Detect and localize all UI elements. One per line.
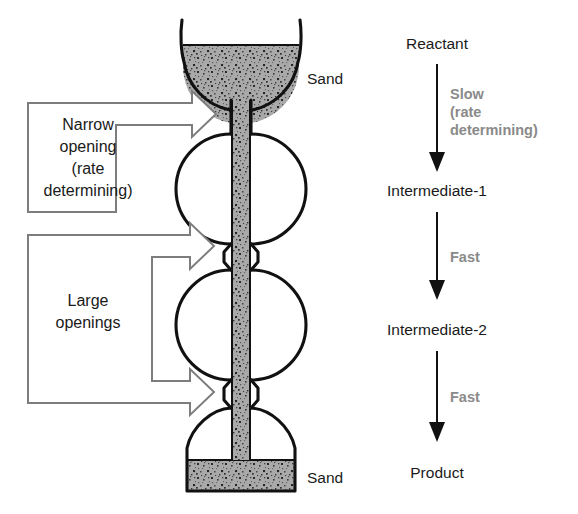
reaction-arrow-step-1 (429, 64, 445, 172)
top-sand-label: Sand (307, 70, 343, 87)
large-opening-lower-right (251, 380, 258, 408)
species-product: Product (410, 464, 464, 481)
step-2-arrow-head (429, 280, 445, 300)
upper-bulb-left (176, 134, 231, 244)
reaction-arrow-step-3 (429, 351, 445, 442)
central-sand-column (232, 100, 250, 452)
narrow-opening-line-2: opening (60, 138, 117, 155)
upper-bulb-right (251, 134, 306, 244)
step-1-label-line-1: Slow (450, 86, 485, 102)
reaction-arrow-step-2 (429, 212, 445, 300)
step-2-label: Fast (450, 249, 480, 265)
species-intermediate-2: Intermediate-2 (387, 321, 487, 338)
step-1-label-line-3: determining) (450, 122, 538, 138)
step-3-arrow-head (429, 422, 445, 442)
step-3-label: Fast (450, 389, 480, 405)
large-opening-upper-right (251, 244, 258, 270)
large-openings-line-2: openings (56, 314, 121, 331)
step-1-label-line-2: (rate (450, 104, 481, 120)
large-openings-callout: Large openings (28, 223, 214, 415)
lower-bulb-right (251, 270, 306, 380)
narrow-opening-callout: Narrow opening (rate determining) (28, 91, 216, 212)
large-opening-lower-left (224, 380, 231, 408)
step-1-arrow-head (429, 152, 445, 172)
lower-bulb-left (176, 270, 231, 380)
reaction-scheme: Reactant Slow (rate determining) Interme… (387, 35, 538, 481)
narrow-opening-line-1: Narrow (62, 116, 114, 133)
diagram-root: Sand Sand Narrow opening (rate determini… (0, 0, 578, 514)
narrow-opening-line-3: (rate (72, 160, 105, 177)
narrow-opening-line-4: determining) (44, 182, 133, 199)
species-reactant: Reactant (406, 35, 469, 52)
bottom-sand-label: Sand (307, 469, 343, 486)
large-openings-line-1: Large (68, 292, 109, 309)
sand-timer-reaction-diagram: Sand Sand Narrow opening (rate determini… (0, 0, 578, 514)
species-intermediate-1: Intermediate-1 (387, 182, 487, 199)
column-into-flask (232, 408, 250, 460)
large-opening-upper-left (224, 244, 231, 270)
